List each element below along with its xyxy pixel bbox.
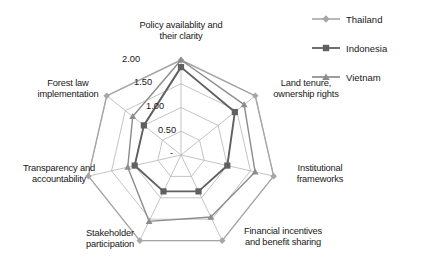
- data-point-marker: [160, 188, 166, 194]
- legend-label-indonesia: Indonesia: [346, 43, 387, 54]
- legend-marker-square-icon: [311, 42, 341, 54]
- data-point-marker: [178, 64, 184, 70]
- tick-label-1-00: 1.00: [146, 101, 164, 111]
- tick-label-2-00: 2.00: [122, 54, 140, 64]
- legend-marker-diamond-icon: [311, 13, 341, 25]
- legend-label-vietnam: Vietnam: [346, 72, 381, 83]
- legend: Thailand Indonesia Vietnam: [311, 8, 415, 95]
- data-point-marker: [132, 162, 138, 168]
- tick-label-zero: -: [170, 148, 173, 158]
- radar-chart: Policy availablity and their clarity Lan…: [0, 0, 421, 266]
- axis-label-stakeholder: Stakeholder participation: [62, 228, 158, 251]
- axis-label-policy: Policy availablity and their clarity: [111, 20, 251, 43]
- legend-label-thailand: Thailand: [346, 14, 382, 25]
- tick-label-1-50: 1.50: [134, 77, 152, 87]
- legend-item-indonesia[interactable]: Indonesia: [311, 37, 415, 59]
- legend-item-vietnam[interactable]: Vietnam: [311, 66, 415, 88]
- axis-label-transparency: Transparency and accountability: [6, 163, 112, 186]
- data-point-marker: [232, 109, 238, 115]
- legend-item-thailand[interactable]: Thailand: [311, 8, 415, 30]
- axis-label-forest-law: Forest law implementation: [18, 78, 118, 101]
- tick-label-0-50: 0.50: [158, 125, 176, 135]
- legend-marker-triangle-icon: [311, 71, 341, 83]
- axis-label-financial: Financial incentives and benefit sharing: [220, 226, 346, 249]
- data-point-marker: [195, 188, 201, 194]
- data-point-marker: [224, 162, 230, 168]
- data-point-marker: [141, 122, 147, 128]
- axis-label-institutional: Institutional frameworks: [272, 163, 368, 186]
